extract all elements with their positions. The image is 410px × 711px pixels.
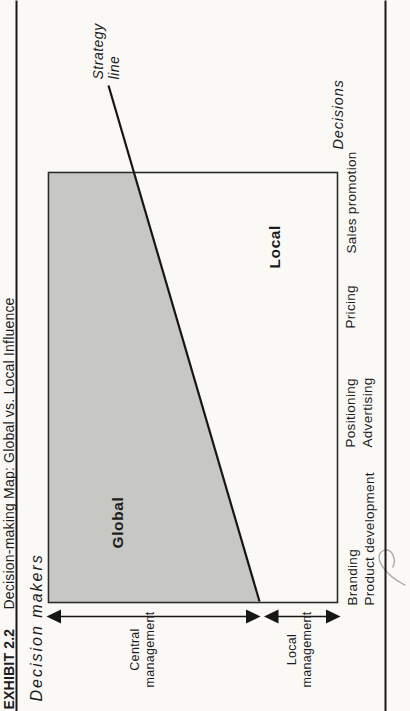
- bottom-rule: [384, 0, 386, 711]
- central-management-line1: Central: [127, 595, 142, 703]
- central-management-line2: management: [142, 595, 157, 703]
- scan-artifact-mark: [379, 550, 405, 585]
- strategy-line-label-line1: Strategy: [89, 23, 105, 79]
- local-region-label: Local: [265, 225, 283, 268]
- tick-positioning-advertising: Positioning Advertising: [342, 377, 375, 447]
- strategy-line-label-line2: line: [105, 23, 121, 79]
- tick-positioning-line2: Advertising: [359, 377, 376, 447]
- global-region-label: Global: [108, 496, 126, 548]
- tick-branding-line2: Product development: [361, 472, 378, 605]
- local-management-line1: Local: [284, 595, 299, 703]
- tick-branding-line1: Branding: [344, 472, 361, 605]
- tick-sales-line1: Sales promotion: [343, 151, 360, 253]
- central-management-label: Central management: [127, 595, 157, 703]
- tick-pricing-line1: Pricing: [342, 285, 359, 328]
- tick-branding-product-development: Branding Product development: [344, 472, 377, 605]
- local-management-line2: management: [299, 595, 314, 703]
- strategy-line-label: Strategy line: [89, 23, 121, 79]
- scanned-page: EXHIBIT 2.2 Decision-making Map: Global …: [0, 0, 410, 711]
- tick-pricing: Pricing: [342, 285, 359, 328]
- local-management-label: Local management: [284, 595, 314, 703]
- tick-positioning-line1: Positioning: [342, 377, 359, 447]
- tick-sales-promotion: Sales promotion: [343, 151, 360, 253]
- exhibit-canvas: EXHIBIT 2.2 Decision-making Map: Global …: [0, 0, 410, 711]
- decisions-axis-title: Decisions: [329, 79, 345, 149]
